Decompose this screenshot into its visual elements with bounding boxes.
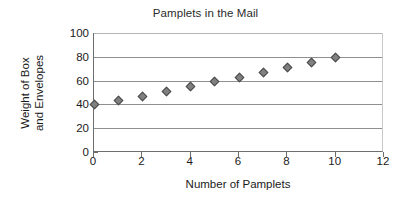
data-point	[258, 68, 268, 78]
x-tick-label-10: 10	[320, 155, 350, 167]
scatter-chart: Pamplets in the Mail Weight of Box and E…	[0, 0, 411, 210]
y-tick-label-100: 100	[55, 27, 89, 39]
x-tick-label-6: 6	[223, 155, 253, 167]
data-point	[137, 91, 147, 101]
x-tick-label-2: 2	[126, 155, 156, 167]
y-axis-title-line2: and Envelopes	[32, 55, 46, 131]
data-point	[89, 99, 99, 109]
x-tick-label-8: 8	[271, 155, 301, 167]
x-tick-label-4: 4	[175, 155, 205, 167]
plot-area	[93, 33, 383, 152]
x-axis-title: Number of Pamplets	[93, 178, 383, 190]
data-point	[162, 86, 172, 96]
data-point	[113, 95, 123, 105]
y-axis-title-line1: Weight of Box	[18, 55, 32, 131]
y-tick-label-60: 60	[55, 75, 89, 87]
x-tick-label-12: 12	[368, 155, 398, 167]
data-point	[210, 77, 220, 87]
y-axis-title: Weight of Box and Envelopes	[12, 33, 52, 153]
y-axis-tick-labels: 020406080100	[51, 33, 89, 152]
data-point	[282, 63, 292, 73]
data-points	[94, 33, 382, 151]
data-point	[331, 52, 341, 62]
y-tick-label-40: 40	[55, 98, 89, 110]
chart-title: Pamplets in the Mail	[0, 7, 411, 19]
x-tick-label-0: 0	[78, 155, 108, 167]
y-tick-label-20: 20	[55, 122, 89, 134]
data-point	[307, 58, 317, 68]
data-point	[234, 72, 244, 82]
y-tick-label-80: 80	[55, 51, 89, 63]
data-point	[186, 82, 196, 92]
